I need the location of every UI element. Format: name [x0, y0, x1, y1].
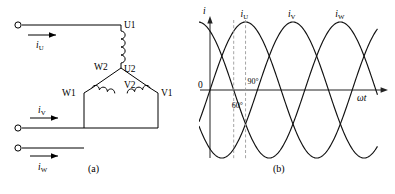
- winding-coil-u: [121, 25, 125, 68]
- label-u2: U2: [124, 64, 136, 74]
- y-axis: [207, 16, 212, 158]
- terminal-dot-w: [15, 145, 21, 151]
- label-v1: V1: [161, 88, 173, 98]
- series-labels: iUiViW: [241, 9, 345, 20]
- label-w2: W2: [94, 62, 108, 72]
- caption-a: (a): [88, 163, 99, 174]
- series-label-v: iV: [288, 9, 296, 20]
- label-current-iw: iW: [38, 162, 48, 173]
- x-axis-label: ωt: [357, 93, 367, 103]
- waveform-chart-panel: i 0 ωt iUiViW 60°90°: [197, 0, 395, 194]
- x-axis: [200, 87, 388, 92]
- terminal-dot-u: [15, 22, 21, 28]
- current-arrow-w: [30, 153, 58, 159]
- current-arrow-v: [30, 115, 58, 121]
- series-label-u: iU: [241, 9, 249, 20]
- label-v2: V2: [124, 80, 136, 90]
- winding-coil-w: [84, 68, 121, 128]
- label-w1: W1: [62, 88, 76, 98]
- annotation-60deg: 60°: [232, 101, 243, 110]
- label-u1: U1: [124, 20, 136, 30]
- figure-root: U1 U2 W2 V2 W1 V1 iU iV iW i 0 ωt: [0, 0, 395, 194]
- series-label-w: iW: [335, 9, 345, 20]
- terminal-dot-v: [15, 125, 21, 131]
- label-current-iv: iV: [38, 105, 46, 116]
- waveform-svg: i 0 ωt iUiViW 60°90°: [197, 0, 395, 194]
- origin-label: 0: [198, 80, 203, 90]
- label-current-iu: iU: [36, 40, 44, 51]
- annotation-90deg: 90°: [248, 77, 259, 86]
- caption-b: (b): [273, 163, 285, 174]
- y-axis-label: i: [203, 6, 206, 16]
- winding-coil-v: [121, 68, 158, 128]
- current-arrow-u: [28, 32, 56, 38]
